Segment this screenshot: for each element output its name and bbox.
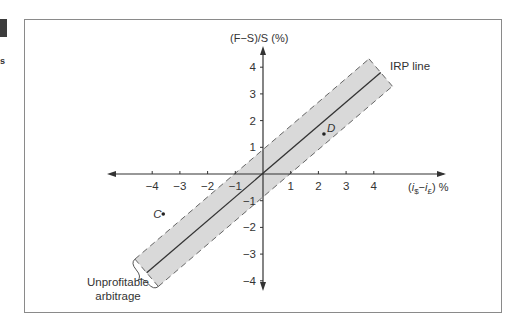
x-tick-label: −1 [229, 180, 242, 192]
irp-line-label: IRP line [390, 60, 430, 72]
point-label-d: D [327, 122, 335, 134]
x-axis-right-arrow-icon [437, 171, 446, 177]
y-tick-label: −1 [243, 195, 256, 207]
x-axis-left-arrow-icon [107, 171, 116, 177]
y-tick-label: −3 [243, 248, 256, 260]
x-tick-label: 4 [371, 180, 378, 192]
y-tick-label: 1 [250, 141, 256, 153]
y-tick-label: 4 [250, 61, 257, 73]
x-tick-label: −4 [146, 180, 160, 192]
point-d [322, 132, 326, 136]
y-tick-label: −4 [243, 275, 257, 287]
x-tick-label: −2 [201, 180, 214, 192]
point-label-c: C [153, 208, 162, 220]
x-tick-label: 2 [315, 180, 321, 192]
x-tick-label: −3 [173, 180, 186, 192]
unprofitable-label-line2: arbitrage [95, 290, 140, 302]
y-axis-up-arrow-icon [260, 46, 266, 55]
point-c [161, 212, 165, 216]
y-axis-down-arrow-icon [260, 282, 266, 291]
y-tick-label: 3 [250, 88, 256, 100]
x-tick-label: 1 [287, 180, 293, 192]
unprofitable-label-line1: Unprofitable [87, 276, 149, 288]
x-axis-title: (i$−i£) % [408, 181, 449, 196]
y-tick-label: −2 [243, 221, 256, 233]
y-axis-title: (F−S)/S (%) [230, 32, 288, 44]
y-tick-label: 2 [250, 115, 256, 127]
x-tick-label: 3 [343, 180, 349, 192]
irp-chart: −4−3−2−11234−4−3−2−11234 CD (F−S)/S (%) … [0, 0, 523, 331]
